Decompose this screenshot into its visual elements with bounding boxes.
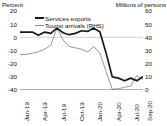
right-tick-50: 50 xyxy=(145,21,159,28)
left-tick-neg20: -20 xyxy=(2,60,17,67)
x-axis-label-apr-19: Apr-19 xyxy=(41,102,48,121)
right-tick-20: 20 xyxy=(145,60,159,67)
x-axis-label-apr-20: Apr-20 xyxy=(115,102,122,121)
legend-item-tourist-arrivals: Tourist arrivals (RHS) xyxy=(35,21,104,29)
x-axis-label-sep-20: Sep-20 xyxy=(146,101,153,121)
x-axis-label-jan-20: Jan-20 xyxy=(96,102,103,121)
legend-marker-line-icon xyxy=(35,25,44,26)
left-tick-0: 0 xyxy=(2,34,17,41)
dual-axis-line-chart: Percent Millions of persons 20100-10-20-… xyxy=(0,0,167,126)
legend-marker-line-icon xyxy=(35,17,44,19)
x-axis-label-oct-19: Oct-19 xyxy=(78,102,85,121)
right-tick-30: 30 xyxy=(145,47,159,54)
series-line-services-exports xyxy=(20,28,143,81)
x-axis-label-jan-19: Jan-19 xyxy=(23,102,30,121)
right-tick-0: 0 xyxy=(145,86,159,93)
left-tick-10: 10 xyxy=(2,21,17,28)
legend-label-tourist-arrivals: Tourist arrivals (RHS) xyxy=(45,22,104,29)
right-tick-60: 60 xyxy=(145,7,159,14)
right-tick-10: 10 xyxy=(145,73,159,80)
left-tick-20: 20 xyxy=(2,7,17,14)
left-tick-neg40: -40 xyxy=(2,86,17,93)
x-axis-label-jul-20: Jul-20 xyxy=(133,104,140,121)
left-tick-neg30: -30 xyxy=(2,73,17,80)
left-tick-neg10: -10 xyxy=(2,47,17,54)
x-axis-label-jul-19: Jul-19 xyxy=(60,104,67,121)
right-tick-40: 40 xyxy=(145,34,159,41)
